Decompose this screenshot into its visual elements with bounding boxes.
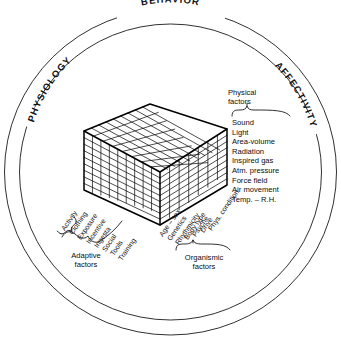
physical-item-radiation: Radiation: [232, 147, 279, 157]
physical-caption-line1: Physical: [228, 88, 256, 97]
cube: [84, 104, 227, 225]
ring-gap-top: [117, 4, 225, 21]
figure-root: BEHAVIOR PHYSIOLOGY AFFECTIVITY: [0, 0, 341, 343]
brace-organismic: [176, 240, 230, 250]
physical-factors-caption: Physical factors: [228, 88, 256, 107]
physical-item-area-volume: Area-volume: [232, 137, 279, 147]
organismic-factors-caption: Organismic factors: [175, 253, 233, 272]
physical-item-temp-rh: Temp. – R.H.: [232, 195, 279, 205]
physical-item-light: Light: [232, 128, 279, 138]
organismic-caption-line1: Organismic: [185, 253, 223, 262]
physical-item-inspired-gas: Inspired gas: [232, 156, 279, 166]
physical-item-sound: Sound: [232, 118, 279, 128]
adaptive-caption-line2: factors: [75, 260, 98, 269]
physical-caption-line2: factors: [228, 97, 251, 106]
brace-physical: [232, 106, 290, 116]
organismic-caption-line2: factors: [193, 262, 216, 271]
diagram-canvas: BEHAVIOR PHYSIOLOGY AFFECTIVITY: [0, 0, 341, 343]
adaptive-factors-caption: Adaptive factors: [58, 251, 114, 270]
physical-item-atm-pressure: Atm. pressure: [232, 166, 279, 176]
physical-item-force-field: Force field: [232, 176, 279, 186]
adaptive-caption-line1: Adaptive: [71, 251, 101, 260]
